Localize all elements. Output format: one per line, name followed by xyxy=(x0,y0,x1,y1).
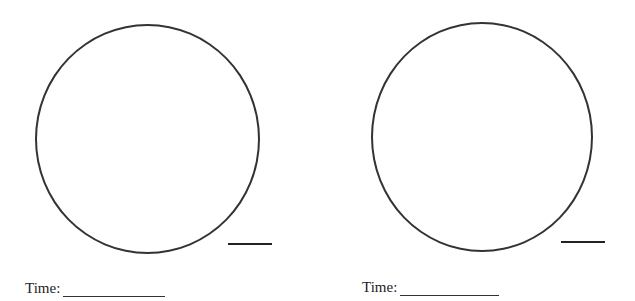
time-blank-2[interactable] xyxy=(400,280,499,296)
answer-line-short-2 xyxy=(561,241,605,243)
clock-face-1 xyxy=(35,24,260,254)
clock-face-2 xyxy=(371,22,593,252)
time-field-2[interactable]: Time: xyxy=(362,278,499,296)
answer-line-short-1 xyxy=(228,243,272,245)
time-label-2: Time: xyxy=(362,278,397,296)
time-field-1[interactable]: Time: xyxy=(25,279,165,297)
time-label-1: Time: xyxy=(25,279,60,297)
time-blank-1[interactable] xyxy=(63,281,165,297)
